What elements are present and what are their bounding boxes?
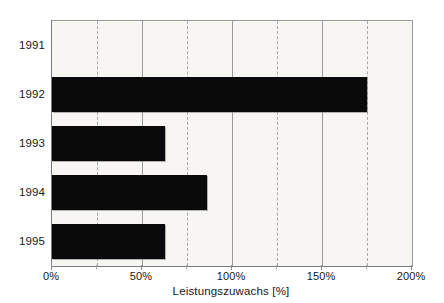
bar-row-1991 — [52, 28, 412, 63]
bar-chart: 19911992199319941995 0%50%100%150%200% L… — [0, 0, 444, 303]
x-axis-label-150pct: 150% — [307, 270, 336, 282]
x-tick-minor-175 — [366, 265, 367, 269]
x-axis-label-0pct: 0% — [43, 270, 59, 282]
bar-1992 — [52, 77, 367, 112]
x-tick-minor-125 — [276, 265, 277, 269]
bar-row-1992 — [52, 77, 412, 112]
y-axis-label-1992: 1992 — [0, 88, 45, 100]
bar-1994 — [52, 175, 207, 210]
x-tick-minor-25 — [96, 265, 97, 269]
x-axis-title: Leistungszuwachs [%] — [51, 285, 411, 297]
x-axis-label-200pct: 200% — [397, 270, 426, 282]
plot-area — [51, 20, 413, 267]
bar-row-1993 — [52, 126, 412, 161]
y-axis-category-labels: 19911992199319941995 — [0, 20, 45, 265]
x-axis-tick-labels: 0%50%100%150%200% — [51, 270, 411, 286]
bar-row-1995 — [52, 224, 412, 259]
y-axis-label-1991: 1991 — [0, 39, 45, 51]
x-axis-label-50pct: 50% — [130, 270, 152, 282]
x-axis-label-100pct: 100% — [217, 270, 246, 282]
y-axis-label-1995: 1995 — [0, 235, 45, 247]
y-axis-label-1993: 1993 — [0, 137, 45, 149]
y-axis-label-1994: 1994 — [0, 186, 45, 198]
bar-series — [52, 21, 412, 266]
bar-1995 — [52, 224, 165, 259]
bar-row-1994 — [52, 175, 412, 210]
x-tick-minor-75 — [186, 265, 187, 269]
bar-1993 — [52, 126, 165, 161]
